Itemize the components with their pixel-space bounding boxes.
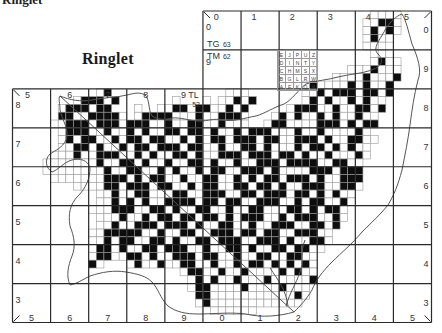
tetrad-recorded (317, 120, 325, 128)
tetrad-surveyed (66, 143, 74, 151)
tetrad-surveyed (119, 120, 127, 128)
tetrad-recorded (211, 198, 219, 206)
tetrad-surveyed (249, 276, 257, 284)
tetrad-surveyed (340, 206, 348, 214)
tetrad-recorded (310, 104, 318, 112)
tetrad-surveyed (302, 198, 310, 206)
tetrad-surveyed (150, 213, 158, 221)
tetrad-surveyed (256, 190, 264, 198)
tetrad-surveyed (256, 221, 264, 229)
tetrad-surveyed (302, 276, 310, 284)
tetrad-surveyed (256, 291, 264, 299)
tetrad-surveyed (211, 120, 219, 128)
easting-label: 4 (366, 12, 371, 22)
tetrad-recorded (73, 128, 81, 136)
tetrad-surveyed (96, 136, 104, 144)
tetrad-surveyed (393, 19, 401, 27)
tetrad-recorded (226, 206, 234, 214)
tetrad-recorded (157, 213, 165, 221)
tetrad-surveyed (165, 206, 173, 214)
tetrad-recorded (355, 151, 363, 159)
tetrad-surveyed (371, 50, 379, 58)
tetrad-recorded (142, 112, 150, 120)
tetrad-surveyed (203, 159, 211, 167)
tetrad-recorded (172, 237, 180, 245)
tetrad-recorded (188, 198, 196, 206)
tetrad-recorded (81, 143, 89, 151)
tetrad-surveyed (241, 291, 249, 299)
easting-label: 0 (219, 313, 224, 323)
tetrad-surveyed (119, 151, 127, 159)
tetrad-recorded (272, 190, 280, 198)
tetrad-surveyed (134, 245, 142, 253)
tetrad-surveyed (218, 291, 226, 299)
northing-label: 7 (16, 139, 21, 149)
tetrad-surveyed (226, 190, 234, 198)
tetrad-recorded (325, 167, 333, 175)
tetrad-recorded (211, 190, 219, 198)
tetrad-recorded (241, 182, 249, 190)
tetrad-recorded (310, 206, 318, 214)
tetrad-recorded (249, 151, 257, 159)
tetrad-recorded (355, 112, 363, 120)
tetrad-surveyed (119, 221, 127, 229)
tetrad-surveyed (340, 120, 348, 128)
tetrad-recorded (272, 159, 280, 167)
tetrad-surveyed (325, 198, 333, 206)
tetrad-surveyed (150, 128, 158, 136)
tetrad-surveyed (172, 159, 180, 167)
tetrad-recorded (241, 190, 249, 198)
tetrad-surveyed (211, 268, 219, 276)
tetrad-recorded (172, 245, 180, 253)
tetrad-recorded (317, 198, 325, 206)
tetrad-recorded (272, 136, 280, 144)
tetrad-recorded (325, 151, 333, 159)
tetrad-surveyed (81, 151, 89, 159)
tetrad-recorded (165, 221, 173, 229)
tetrad-recorded (332, 221, 340, 229)
grid-square-tg: TG (207, 39, 220, 49)
tetrad-surveyed (256, 175, 264, 183)
tetrad-recorded (104, 112, 112, 120)
tetrad-surveyed (233, 291, 241, 299)
tetrad-surveyed (104, 159, 112, 167)
tetrad-recorded (310, 213, 318, 221)
tetrad-surveyed (51, 120, 59, 128)
tetrad-surveyed (272, 112, 280, 120)
tetrad-surveyed (241, 206, 249, 214)
tetrad-surveyed (104, 143, 112, 151)
tetrad-surveyed (127, 151, 135, 159)
tetrad-surveyed (195, 175, 203, 183)
tetrad-recorded (325, 97, 333, 105)
tetrad-surveyed (73, 175, 81, 183)
easting-label: 5 (410, 313, 415, 323)
tetrad-recorded (180, 245, 188, 253)
tetrad-surveyed (279, 276, 287, 284)
tetrad-surveyed (188, 190, 196, 198)
tetrad-key-letter: R (302, 75, 310, 83)
tetrad-surveyed (332, 97, 340, 105)
tetrad-surveyed (119, 112, 127, 120)
tetrad-recorded (112, 229, 120, 237)
tetrad-recorded (112, 221, 120, 229)
tetrad-recorded (348, 97, 356, 105)
tetrad-surveyed (302, 120, 310, 128)
tetrad-surveyed (272, 284, 280, 292)
tetrad-surveyed (325, 89, 333, 97)
tetrad-surveyed (142, 260, 150, 268)
tetrad-recorded (218, 229, 226, 237)
tetrad-recorded (233, 97, 241, 105)
tetrad-key-letter: Z (310, 51, 318, 59)
tetrad-surveyed (302, 206, 310, 214)
tetrad-surveyed (294, 284, 302, 292)
tetrad-recorded (310, 159, 318, 167)
tetrad-recorded (112, 182, 120, 190)
tetrad-surveyed (218, 175, 226, 183)
tetrad-surveyed (226, 291, 234, 299)
tetrad-recorded (332, 213, 340, 221)
tetrad-recorded (294, 252, 302, 260)
northing-label: 4 (423, 259, 428, 269)
tetrad-recorded (272, 245, 280, 253)
tetrad-surveyed (218, 252, 226, 260)
tetrad-recorded (241, 213, 249, 221)
